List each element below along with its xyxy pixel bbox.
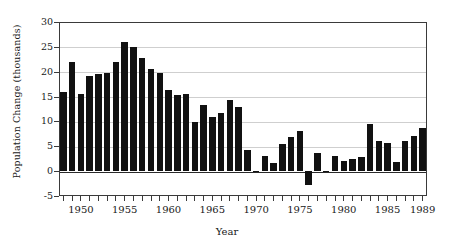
x-tick-label-1975: 1975 xyxy=(278,204,322,216)
x-tick-mark-1958 xyxy=(151,196,152,201)
x-tick-mark-1989 xyxy=(422,196,423,201)
bar xyxy=(148,69,154,171)
y-tick-label-30: 30 xyxy=(13,17,53,27)
y-tick-mark-0 xyxy=(54,171,59,172)
y-tick-label-20: 20 xyxy=(13,67,53,77)
x-tick-mark-1975 xyxy=(299,196,300,201)
bar xyxy=(209,117,215,171)
y-tick-mark-25 xyxy=(54,47,59,48)
bar xyxy=(297,131,303,171)
bar xyxy=(323,171,329,172)
y-tick-label-0: 0 xyxy=(13,166,53,176)
x-tick-mark-1972 xyxy=(273,196,274,201)
bar xyxy=(402,141,408,171)
x-tick-label-1989: 1989 xyxy=(401,204,445,216)
y-tick-label--5: -5 xyxy=(13,191,53,201)
x-tick-label-1980: 1980 xyxy=(322,204,366,216)
x-tick-mark-1970 xyxy=(256,196,257,201)
bar xyxy=(104,73,110,171)
bar xyxy=(384,143,390,171)
y-tick-mark-30 xyxy=(54,22,59,23)
bar xyxy=(183,94,189,172)
x-tick-mark-1965 xyxy=(212,196,213,201)
bar xyxy=(253,171,259,172)
bar xyxy=(130,47,136,171)
x-tick-mark-1955 xyxy=(124,196,125,201)
bar xyxy=(411,136,417,171)
bar xyxy=(244,150,250,171)
bar xyxy=(227,100,233,172)
x-tick-mark-1952 xyxy=(98,196,99,201)
x-tick-mark-1979 xyxy=(335,196,336,201)
bar xyxy=(139,58,145,171)
bar xyxy=(367,124,373,171)
y-tick-mark-10 xyxy=(54,121,59,122)
x-tick-mark-1957 xyxy=(142,196,143,201)
bar xyxy=(270,163,276,171)
population-change-bar-chart: Population Change (thousands) 1950195519… xyxy=(0,0,454,250)
bar xyxy=(419,128,425,171)
x-axis-labels: 195019551960196519701975198019851989 xyxy=(59,204,427,218)
bar xyxy=(341,161,347,171)
x-tick-mark-1984 xyxy=(378,196,379,201)
bar xyxy=(113,62,119,171)
bar xyxy=(262,156,268,171)
bar xyxy=(174,95,180,171)
x-tick-label-1965: 1965 xyxy=(190,204,234,216)
y-tick-mark-5 xyxy=(54,146,59,147)
x-tick-mark-1966 xyxy=(221,196,222,201)
x-tick-mark-1976 xyxy=(308,196,309,201)
bar xyxy=(121,42,127,171)
x-tick-mark-1982 xyxy=(361,196,362,201)
x-axis-ticks xyxy=(59,196,427,202)
x-tick-mark-1953 xyxy=(107,196,108,201)
x-tick-mark-1977 xyxy=(317,196,318,201)
x-tick-mark-1956 xyxy=(133,196,134,201)
x-tick-mark-1959 xyxy=(159,196,160,201)
x-tick-mark-1987 xyxy=(405,196,406,201)
x-tick-mark-1983 xyxy=(370,196,371,201)
bar xyxy=(349,159,355,171)
bar xyxy=(165,90,171,172)
x-tick-mark-1962 xyxy=(186,196,187,201)
bar xyxy=(86,76,92,171)
bar xyxy=(358,157,364,171)
x-tick-mark-1954 xyxy=(115,196,116,201)
y-tick-label-25: 25 xyxy=(13,42,53,52)
x-tick-mark-1974 xyxy=(291,196,292,201)
bar xyxy=(157,73,163,171)
x-tick-mark-1951 xyxy=(89,196,90,201)
bar xyxy=(95,74,101,171)
y-tick-mark-20 xyxy=(54,72,59,73)
bar xyxy=(69,62,75,171)
x-tick-mark-1960 xyxy=(168,196,169,201)
bar xyxy=(288,137,294,171)
bars-layer xyxy=(59,22,427,196)
x-tick-mark-1949 xyxy=(72,196,73,201)
bar xyxy=(305,171,311,184)
x-tick-mark-1967 xyxy=(229,196,230,201)
x-tick-mark-1950 xyxy=(80,196,81,201)
y-tick-mark--5 xyxy=(54,196,59,197)
bar xyxy=(376,141,382,171)
x-tick-label-1950: 1950 xyxy=(59,204,103,216)
y-tick-label-15: 15 xyxy=(13,92,53,102)
x-tick-mark-1973 xyxy=(282,196,283,201)
x-tick-mark-1986 xyxy=(396,196,397,201)
x-tick-mark-1968 xyxy=(238,196,239,201)
bar xyxy=(192,122,198,171)
x-tick-mark-1988 xyxy=(413,196,414,201)
x-tick-label-1960: 1960 xyxy=(147,204,191,216)
bar xyxy=(60,92,66,171)
x-tick-mark-1963 xyxy=(194,196,195,201)
y-tick-label-5: 5 xyxy=(13,141,53,151)
bar xyxy=(218,113,224,171)
x-tick-mark-1980 xyxy=(343,196,344,201)
x-tick-mark-1969 xyxy=(247,196,248,201)
y-tick-mark-15 xyxy=(54,97,59,98)
bar xyxy=(314,153,320,171)
y-axis-title: Population Change (thousands) xyxy=(11,12,22,192)
bar xyxy=(393,162,399,171)
bar xyxy=(235,107,241,171)
bar xyxy=(200,105,206,172)
